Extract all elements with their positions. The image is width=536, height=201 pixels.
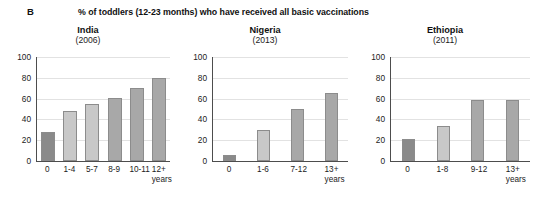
x-tick-label: 12+years (152, 165, 166, 199)
plot-wrap-nigeria: 020406080100 01-67-1213+years (176, 57, 354, 201)
x-tick-label: 0 (223, 165, 236, 199)
figure-title: % of toddlers (12-23 months) who have re… (78, 7, 508, 17)
bar (108, 98, 122, 161)
x-tick-label: 0 (401, 165, 414, 199)
y-tick-label: 80 (198, 73, 207, 83)
x-tick-label: 1-8 (436, 165, 449, 199)
bar-column (257, 57, 270, 161)
bar-column (402, 57, 415, 161)
figure-panel-b: B % of toddlers (12-23 months) who have … (0, 0, 536, 201)
y-tick-label: 20 (22, 135, 31, 145)
panel-heading-nigeria: Nigeria (2013) (176, 24, 354, 46)
x-tick-label: 5-7 (85, 165, 99, 199)
y-tick-label: 20 (198, 135, 207, 145)
y-tick-label: 20 (376, 135, 385, 145)
bar (85, 104, 99, 161)
x-tick-label: 7-12 (291, 165, 304, 199)
y-tick-label: 40 (376, 114, 385, 124)
x-axis-units-label: years (325, 175, 338, 185)
panel-year-india: (2006) (0, 36, 176, 46)
plot-area-nigeria (212, 57, 348, 162)
panel-country-nigeria: Nigeria (176, 25, 354, 35)
y-tick-label: 100 (371, 52, 385, 62)
bar-column (325, 57, 338, 161)
x-tick-label: 0 (40, 165, 54, 199)
y-tick-label: 0 (26, 156, 31, 166)
x-tick-label: 10-11 (129, 165, 143, 199)
panel-heading-india: India (2006) (0, 24, 176, 46)
bar (257, 130, 270, 161)
y-axis-ticks-ethiopia: 020406080100 (354, 57, 388, 161)
y-tick-label: 40 (198, 114, 207, 124)
bar (471, 100, 484, 161)
bar (325, 93, 338, 161)
bar-group-india (37, 57, 170, 161)
y-axis-ticks-nigeria: 020406080100 (176, 57, 210, 161)
y-tick-label: 60 (376, 94, 385, 104)
panel-letter: B (27, 6, 34, 17)
panel-year-ethiopia: (2011) (354, 36, 536, 46)
chart-panel-nigeria: Nigeria (2013) 020406080100 01-67-1213+y… (176, 24, 354, 201)
plot-area-india (36, 57, 170, 162)
x-tick-label: 1-6 (257, 165, 270, 199)
plot-area-ethiopia (390, 57, 530, 162)
bar-column (63, 57, 77, 161)
x-axis-labels-ethiopia: 01-89-1213+years (390, 165, 530, 199)
x-axis-units-label: years (152, 175, 166, 185)
y-tick-label: 0 (380, 156, 385, 166)
panel-country-india: India (0, 25, 176, 35)
y-tick-label: 100 (193, 52, 207, 62)
y-tick-label: 60 (198, 94, 207, 104)
bar (291, 109, 304, 161)
x-tick-label: 8-9 (107, 165, 121, 199)
chart-panel-row: India (2006) 020406080100 01-45-78-910-1… (0, 24, 536, 201)
bar-column (85, 57, 99, 161)
panel-country-ethiopia: Ethiopia (354, 25, 536, 35)
bar-group-ethiopia (391, 57, 530, 161)
bar-column (291, 57, 304, 161)
bar (506, 100, 519, 161)
bar (130, 88, 144, 161)
x-tick-label: 13+years (506, 165, 519, 199)
bar-group-nigeria (213, 57, 348, 161)
y-tick-label: 80 (376, 73, 385, 83)
y-tick-label: 0 (202, 156, 207, 166)
bar-column (437, 57, 450, 161)
x-tick-label: 9-12 (471, 165, 484, 199)
panel-heading-ethiopia: Ethiopia (2011) (354, 24, 536, 46)
y-tick-label: 80 (22, 73, 31, 83)
panel-year-nigeria: (2013) (176, 36, 354, 46)
y-tick-label: 100 (17, 52, 31, 62)
bar-column (152, 57, 166, 161)
bar (63, 111, 77, 161)
x-axis-units-label: years (506, 175, 519, 185)
bar (437, 126, 450, 161)
bar-column (108, 57, 122, 161)
bar (41, 132, 55, 161)
bar-column (130, 57, 144, 161)
bar-column (41, 57, 55, 161)
x-axis-labels-india: 01-45-78-910-1112+years (36, 165, 170, 199)
bar (152, 78, 166, 161)
plot-wrap-ethiopia: 020406080100 01-89-1213+years (354, 57, 536, 201)
plot-wrap-india: 020406080100 01-45-78-910-1112+years (0, 57, 176, 201)
y-tick-label: 60 (22, 94, 31, 104)
bar-column (506, 57, 519, 161)
chart-panel-ethiopia: Ethiopia (2011) 020406080100 01-89-1213+… (354, 24, 536, 201)
chart-panel-india: India (2006) 020406080100 01-45-78-910-1… (0, 24, 176, 201)
bar (402, 139, 415, 161)
x-tick-label: 1-4 (62, 165, 76, 199)
bar (223, 155, 236, 161)
bar-column (471, 57, 484, 161)
y-axis-ticks-india: 020406080100 (0, 57, 34, 161)
x-tick-label: 13+years (325, 165, 338, 199)
y-tick-label: 40 (22, 114, 31, 124)
bar-column (223, 57, 236, 161)
x-axis-labels-nigeria: 01-67-1213+years (212, 165, 348, 199)
